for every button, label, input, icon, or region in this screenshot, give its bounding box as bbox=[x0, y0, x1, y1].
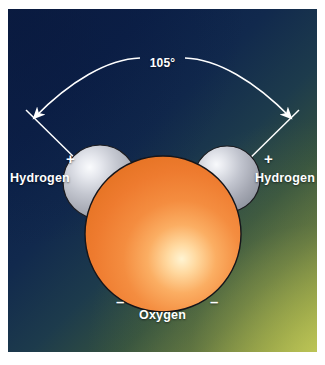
artwork-panel: Hydrogen Hydrogen Oxygen 105° + + – – bbox=[8, 9, 317, 352]
oxygen-charge-sign-right: – bbox=[210, 294, 218, 309]
water-molecule-figure: Hydrogen Hydrogen Oxygen 105° + + – – bbox=[0, 0, 325, 365]
oxygen-charge-sign-left: – bbox=[116, 294, 124, 309]
oxygen-label: Oxygen bbox=[8, 308, 317, 322]
hydrogen-right-label: Hydrogen bbox=[255, 171, 315, 185]
hydrogen-left-charge-sign: + bbox=[66, 151, 75, 166]
oxygen-sphere bbox=[85, 156, 241, 312]
hydrogen-right-charge-sign: + bbox=[264, 151, 273, 166]
hydrogen-left-label: Hydrogen bbox=[10, 171, 70, 185]
bond-angle-label: 105° bbox=[8, 56, 317, 70]
